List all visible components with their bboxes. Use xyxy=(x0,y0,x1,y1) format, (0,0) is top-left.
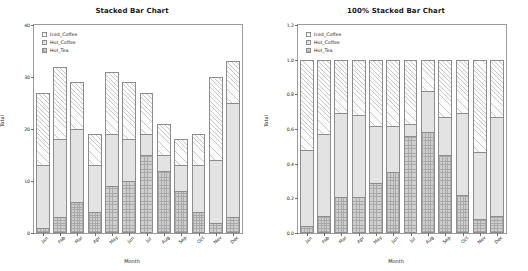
bar-stack[interactable] xyxy=(300,25,314,233)
bar-stack[interactable] xyxy=(122,25,136,233)
bar-segment[interactable] xyxy=(140,134,154,155)
bar-segment[interactable] xyxy=(174,191,188,233)
bar-segment[interactable] xyxy=(386,126,400,173)
bar-segment[interactable] xyxy=(317,134,331,215)
bar-segment[interactable] xyxy=(369,183,383,233)
bar-segment[interactable] xyxy=(226,103,240,217)
bar-segment[interactable] xyxy=(157,124,171,155)
bar-segment[interactable] xyxy=(456,195,470,233)
bar-segment[interactable] xyxy=(105,134,119,186)
bar-segment[interactable] xyxy=(404,124,418,136)
bar-segment[interactable] xyxy=(404,60,418,124)
bar-stack[interactable] xyxy=(226,25,240,233)
bar-segment[interactable] xyxy=(53,67,67,140)
legend-item[interactable]: Iced_Coffee xyxy=(306,31,341,38)
bar-segment[interactable] xyxy=(421,132,435,233)
bar-segment[interactable] xyxy=(438,117,452,155)
bar-segment[interactable] xyxy=(404,136,418,233)
bar-stack[interactable] xyxy=(174,25,188,233)
bar-segment[interactable] xyxy=(36,93,50,166)
bar-segment[interactable] xyxy=(192,212,206,233)
bar-segment[interactable] xyxy=(334,60,348,114)
bar-stack[interactable] xyxy=(140,25,154,233)
bar-segment[interactable] xyxy=(352,115,366,196)
bar-stack[interactable] xyxy=(473,25,487,233)
bar-segment[interactable] xyxy=(192,134,206,165)
bar-stack[interactable] xyxy=(421,25,435,233)
bar-segment[interactable] xyxy=(473,60,487,152)
bar-segment[interactable] xyxy=(438,60,452,117)
bar-stack[interactable] xyxy=(456,25,470,233)
bar-segment[interactable] xyxy=(317,216,331,233)
bar-segment[interactable] xyxy=(226,217,240,233)
bar-segment[interactable] xyxy=(140,93,154,135)
bar-segment[interactable] xyxy=(490,60,504,117)
bar-stack[interactable] xyxy=(369,25,383,233)
bar-segment[interactable] xyxy=(157,155,171,171)
bar-segment[interactable] xyxy=(490,117,504,216)
bar-segment[interactable] xyxy=(122,139,136,181)
legend-item[interactable]: Hot_Tea xyxy=(306,47,341,54)
bar-segment[interactable] xyxy=(352,197,366,233)
bar-segment[interactable] xyxy=(369,60,383,126)
bar-stack[interactable] xyxy=(352,25,366,233)
bar-segment[interactable] xyxy=(209,160,223,222)
legend-item[interactable]: Hot_Coffee xyxy=(42,39,77,46)
bar-segment[interactable] xyxy=(70,82,84,129)
bar-stack[interactable] xyxy=(386,25,400,233)
bar-segment[interactable] xyxy=(70,129,84,202)
bar-segment[interactable] xyxy=(174,165,188,191)
bar-segment[interactable] xyxy=(473,152,487,220)
bar-segment[interactable] xyxy=(386,60,400,126)
bar-segment[interactable] xyxy=(334,197,348,233)
legend-item[interactable]: Hot_Coffee xyxy=(306,39,341,46)
bar-stack[interactable] xyxy=(88,25,102,233)
bar-segment[interactable] xyxy=(105,72,119,134)
bar-segment[interactable] xyxy=(300,60,314,150)
bar-segment[interactable] xyxy=(105,186,119,233)
bar-stack[interactable] xyxy=(105,25,119,233)
bar-segment[interactable] xyxy=(352,60,366,115)
bar-segment[interactable] xyxy=(209,77,223,160)
legend-item[interactable]: Hot_Tea xyxy=(42,47,77,54)
bar-segment[interactable] xyxy=(209,223,223,233)
bar-stack[interactable] xyxy=(192,25,206,233)
bar-segment[interactable] xyxy=(317,60,331,135)
bar-segment[interactable] xyxy=(122,181,136,233)
bar-segment[interactable] xyxy=(300,150,314,226)
bar-segment[interactable] xyxy=(226,61,240,103)
bar-stack[interactable] xyxy=(209,25,223,233)
bar-segment[interactable] xyxy=(334,113,348,196)
bar-segment[interactable] xyxy=(438,155,452,233)
bar-segment[interactable] xyxy=(88,165,102,212)
bar-segment[interactable] xyxy=(490,216,504,233)
bar-stack[interactable] xyxy=(70,25,84,233)
bar-segment[interactable] xyxy=(369,126,383,183)
bar-segment[interactable] xyxy=(300,226,314,233)
bar-segment[interactable] xyxy=(386,172,400,233)
bar-segment[interactable] xyxy=(192,165,206,212)
bar-segment[interactable] xyxy=(421,60,435,91)
bar-stack[interactable] xyxy=(490,25,504,233)
bar-segment[interactable] xyxy=(456,60,470,114)
bar-stack[interactable] xyxy=(334,25,348,233)
bar-segment[interactable] xyxy=(122,82,136,139)
bar-segment[interactable] xyxy=(70,202,84,233)
bar-segment[interactable] xyxy=(473,219,487,233)
bar-stack[interactable] xyxy=(157,25,171,233)
bar-segment[interactable] xyxy=(88,134,102,165)
bar-segment[interactable] xyxy=(174,139,188,165)
bar-stack[interactable] xyxy=(317,25,331,233)
bar-segment[interactable] xyxy=(88,212,102,233)
bar-segment[interactable] xyxy=(140,155,154,233)
bar-segment[interactable] xyxy=(421,91,435,133)
bar-segment[interactable] xyxy=(456,113,470,194)
legend-item[interactable]: Iced_Coffee xyxy=(42,31,77,38)
bar-segment[interactable] xyxy=(36,165,50,227)
bar-segment[interactable] xyxy=(157,171,171,233)
bar-stack[interactable] xyxy=(404,25,418,233)
bar-stack[interactable] xyxy=(53,25,67,233)
bar-stack[interactable] xyxy=(438,25,452,233)
bar-segment[interactable] xyxy=(53,217,67,233)
bar-segment[interactable] xyxy=(53,139,67,217)
